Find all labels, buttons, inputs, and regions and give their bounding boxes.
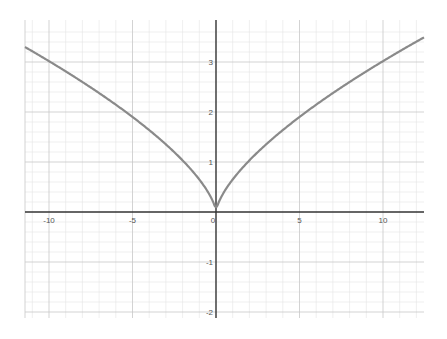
major-grid — [25, 20, 424, 318]
y-tick-label: 1 — [209, 158, 214, 167]
x-tick-label: 0 — [211, 216, 216, 225]
x-tick-label: -10 — [43, 216, 55, 225]
y-tick-label: 2 — [209, 108, 214, 117]
x-tick-label: 10 — [379, 216, 388, 225]
minor-grid — [25, 20, 424, 318]
function-plot: -10-50510-2-1123 — [0, 0, 447, 339]
y-tick-label: 3 — [209, 58, 214, 67]
x-tick-label: 5 — [297, 216, 302, 225]
axes — [25, 20, 424, 318]
x-tick-label: -5 — [129, 216, 137, 225]
y-tick-label: -1 — [206, 258, 214, 267]
y-tick-label: -2 — [206, 308, 214, 317]
